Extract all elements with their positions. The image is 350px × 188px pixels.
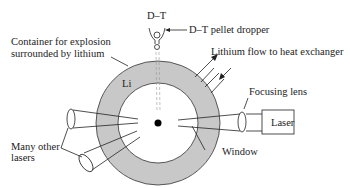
laser-label: Laser (271, 117, 295, 128)
many-lasers-label-2: lasers (11, 152, 35, 163)
container-label: Container for explosion (11, 36, 111, 47)
dt-label: D–T (147, 10, 167, 21)
many-lasers-label: Many other (11, 141, 60, 152)
target-pellet (155, 120, 162, 127)
fusion-diagram: D–T D–T pellet dropper Container for exp… (0, 0, 350, 188)
li-label: Li (122, 78, 131, 89)
focusing-lens-label: Focusing lens (249, 86, 307, 97)
window-label: Window (222, 146, 258, 157)
container-label-2: surrounded by lithium (11, 48, 104, 59)
pellet-dropper-label: D–T pellet dropper (189, 24, 270, 35)
lithium-flow-label: Lithium flow to heat exchanger (211, 46, 344, 57)
